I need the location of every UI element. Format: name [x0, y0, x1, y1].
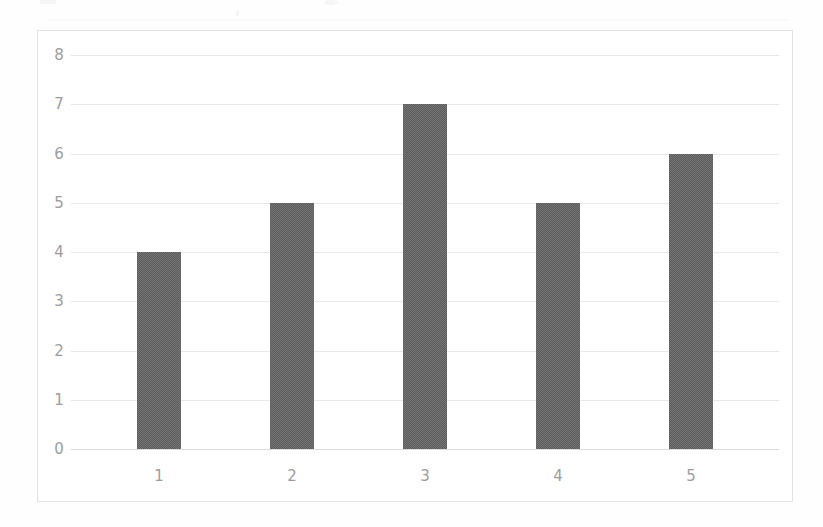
bar-1 [137, 252, 181, 449]
scan-artifact-top-center [324, 0, 338, 5]
plot-area: 012345678 12345 [37, 30, 793, 502]
bar-5 [669, 154, 713, 450]
scan-artifact-top-mark [236, 10, 239, 16]
scan-artifact-top-left [40, 0, 56, 4]
gridline-8 [71, 55, 779, 56]
x-tick-label-2: 2 [270, 469, 314, 484]
y-tick-label-6: 6 [40, 146, 64, 161]
y-tick-label-3: 3 [40, 294, 64, 309]
y-tick-label-5: 5 [40, 195, 64, 210]
y-tick-label-2: 2 [40, 343, 64, 358]
bar-2 [270, 203, 314, 449]
bar-chart-figure: 012345678 12345 [0, 0, 823, 527]
y-tick-label-8: 8 [40, 48, 64, 63]
x-tick-label-4: 4 [536, 469, 580, 484]
x-tick-label-3: 3 [403, 469, 447, 484]
gridline-0 [71, 449, 779, 450]
x-tick-label-5: 5 [669, 469, 713, 484]
y-tick-label-7: 7 [40, 97, 64, 112]
y-tick-label-1: 1 [40, 392, 64, 407]
x-tick-label-1: 1 [137, 469, 181, 484]
bar-3 [403, 104, 447, 449]
y-tick-label-0: 0 [40, 442, 64, 457]
bar-4 [536, 203, 580, 449]
scan-artifact-top-line [48, 19, 788, 21]
y-tick-label-4: 4 [40, 245, 64, 260]
